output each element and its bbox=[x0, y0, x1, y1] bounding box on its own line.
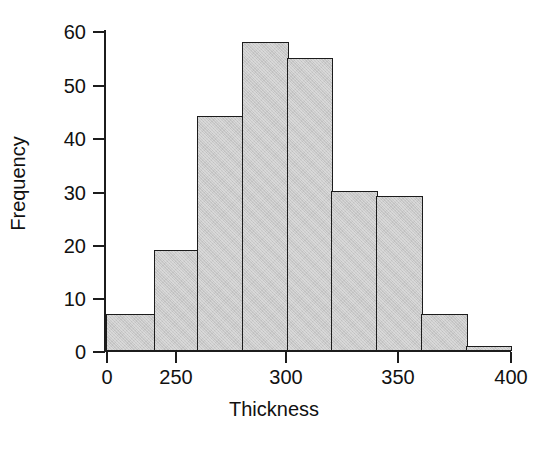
y-axis-tick-label: 0 bbox=[75, 341, 86, 364]
histogram-bar bbox=[106, 314, 156, 351]
y-axis-tick-label: 50 bbox=[64, 75, 86, 98]
histogram-bar bbox=[154, 250, 199, 351]
x-axis-tick bbox=[106, 352, 108, 363]
x-axis-tick bbox=[397, 352, 399, 363]
plot-area bbox=[105, 25, 511, 351]
y-axis-tick bbox=[93, 138, 105, 140]
histogram-bar bbox=[331, 191, 378, 351]
x-axis-tick-label: 350 bbox=[381, 366, 414, 389]
y-axis-tick bbox=[93, 85, 105, 87]
y-axis-tick bbox=[93, 245, 105, 247]
histogram-bar bbox=[242, 42, 289, 351]
y-axis-tick bbox=[93, 298, 105, 300]
y-axis-tick-label: 60 bbox=[64, 21, 86, 44]
y-axis-tick-label: 30 bbox=[64, 182, 86, 205]
x-axis-tick-label: 300 bbox=[269, 366, 302, 389]
histogram-figure: 0250300350400 0102030405060 Thickness Fr… bbox=[0, 0, 548, 455]
y-axis-tick bbox=[93, 351, 105, 353]
y-axis-title: Frequency bbox=[7, 74, 30, 294]
histogram-bar bbox=[287, 58, 333, 351]
x-axis-title: Thickness bbox=[0, 398, 548, 421]
y-axis-line bbox=[104, 30, 106, 352]
y-axis-tick-label: 20 bbox=[64, 235, 86, 258]
histogram-bar bbox=[421, 314, 468, 351]
x-axis-tick bbox=[285, 352, 287, 363]
histogram-bar bbox=[197, 116, 244, 351]
y-axis-tick-label: 40 bbox=[64, 128, 86, 151]
histogram-bar bbox=[376, 196, 423, 351]
x-axis-tick-label: 400 bbox=[494, 366, 527, 389]
x-axis-tick bbox=[510, 352, 512, 363]
x-axis-tick bbox=[175, 352, 177, 363]
y-axis-tick-label: 10 bbox=[64, 288, 86, 311]
x-axis-tick-label: 250 bbox=[159, 366, 192, 389]
x-axis-line bbox=[105, 350, 511, 352]
y-axis-tick bbox=[93, 192, 105, 194]
x-axis-tick-label: 0 bbox=[101, 366, 112, 389]
y-axis-tick bbox=[93, 31, 105, 33]
